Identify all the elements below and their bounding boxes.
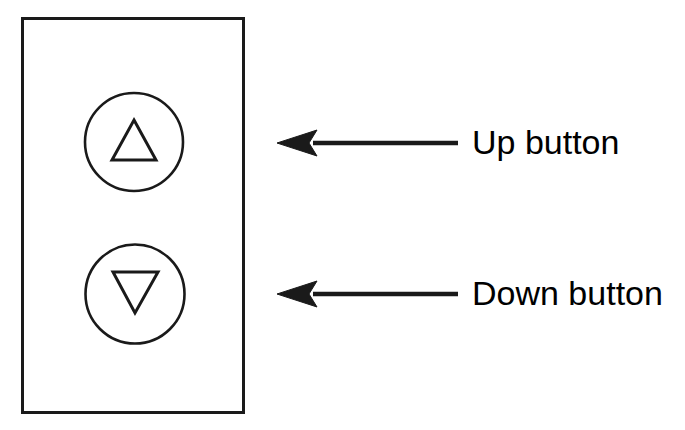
callout-arrow-up-head bbox=[277, 130, 317, 156]
down-button-label: Down button bbox=[472, 276, 663, 310]
up-button-label: Up button bbox=[472, 125, 619, 159]
callout-arrow-down-head bbox=[277, 281, 317, 307]
callout-arrow-up-shaft bbox=[313, 141, 458, 145]
switch-plate bbox=[23, 19, 244, 413]
callout-arrow-down-shaft bbox=[313, 292, 458, 296]
diagram-graphics bbox=[0, 0, 685, 430]
callout-arrow-down bbox=[277, 281, 458, 307]
callout-arrow-up bbox=[277, 130, 458, 156]
diagram-canvas: Up button Down button bbox=[0, 0, 685, 430]
